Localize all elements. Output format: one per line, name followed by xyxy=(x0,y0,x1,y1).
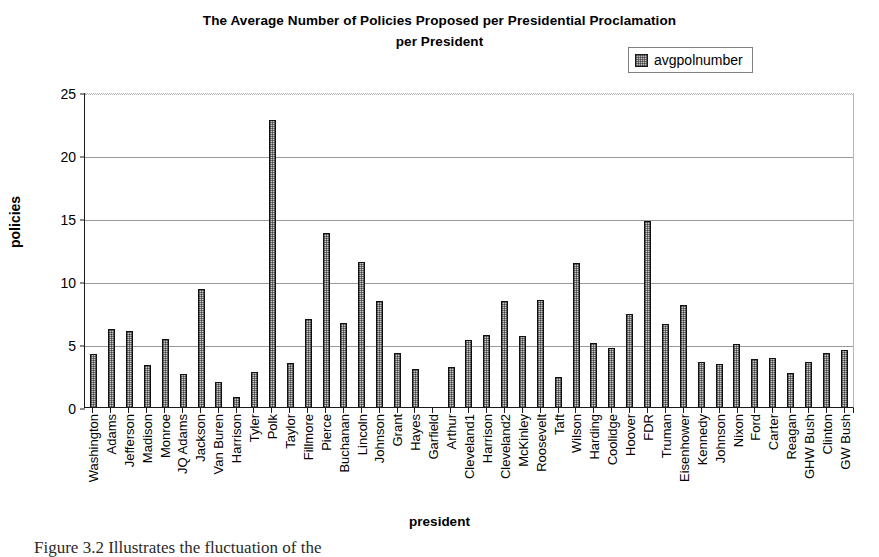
x-label-slot: Adams xyxy=(102,414,120,510)
bar[interactable] xyxy=(358,262,365,407)
bar[interactable] xyxy=(305,319,312,407)
bar[interactable] xyxy=(144,365,151,407)
bar[interactable] xyxy=(519,336,526,407)
bar[interactable] xyxy=(608,348,615,407)
bar[interactable] xyxy=(483,335,490,407)
legend-series-label: avgpolnumber xyxy=(654,53,743,67)
x-label-slot: Nixon xyxy=(729,414,747,510)
bar[interactable] xyxy=(662,324,669,407)
x-tick-label: Coolidge xyxy=(606,414,619,465)
x-tick-label: Madison xyxy=(140,414,153,463)
bars-layer xyxy=(85,94,853,407)
x-label-slot: Taft xyxy=(550,414,568,510)
bar[interactable] xyxy=(198,289,205,407)
x-label-slot: Carter xyxy=(764,414,782,510)
bar[interactable] xyxy=(376,301,383,407)
chart-legend[interactable]: avgpolnumber xyxy=(628,47,753,73)
x-tick-slot xyxy=(388,408,406,413)
bar[interactable] xyxy=(465,340,472,407)
x-tick-label: Lincoln xyxy=(355,414,368,455)
bar[interactable] xyxy=(787,373,794,407)
x-label-slot: Garfield xyxy=(424,414,442,510)
bar[interactable] xyxy=(537,300,544,407)
bar[interactable] xyxy=(680,305,687,407)
x-label-slot: Harding xyxy=(585,414,603,510)
bar[interactable] xyxy=(394,353,401,407)
bar[interactable] xyxy=(126,331,133,407)
x-tick-slot xyxy=(621,408,639,413)
bar[interactable] xyxy=(448,367,455,407)
bar[interactable] xyxy=(251,372,258,407)
x-tick-slot xyxy=(585,408,603,413)
x-tick-label: Johnson xyxy=(373,414,386,463)
x-tick-label: Cleveland1 xyxy=(462,414,475,479)
x-tick-label: Jackson xyxy=(194,414,207,462)
bar[interactable] xyxy=(90,354,97,407)
x-tick-label: Nixon xyxy=(731,414,744,447)
bar[interactable] xyxy=(644,221,651,407)
bar-slot xyxy=(371,94,389,407)
x-tick-mark xyxy=(647,408,648,413)
x-label-slot: Reagan xyxy=(782,414,800,510)
bar[interactable] xyxy=(162,339,169,407)
bar[interactable] xyxy=(323,233,330,407)
bar-slot xyxy=(389,94,407,407)
bar[interactable] xyxy=(412,369,419,407)
x-tick-slot xyxy=(603,408,621,413)
bar[interactable] xyxy=(108,329,115,407)
y-tick-label-0: 0 xyxy=(68,401,76,417)
bar[interactable] xyxy=(340,323,347,407)
x-tick-slot xyxy=(853,408,854,413)
bar[interactable] xyxy=(180,374,187,407)
x-label-slot: Eisenhower xyxy=(675,414,693,510)
bar[interactable] xyxy=(751,359,758,407)
x-tick-mark xyxy=(719,408,720,413)
figure-caption-fragment: Figure 3.2 Illustrates the fluctuation o… xyxy=(34,538,322,557)
x-tick-slot xyxy=(406,408,424,413)
x-tick-slot xyxy=(531,408,549,413)
bar-slot xyxy=(692,94,710,407)
bar[interactable] xyxy=(215,382,222,407)
bar[interactable] xyxy=(555,377,562,407)
bar[interactable] xyxy=(805,362,812,407)
x-tick-slot xyxy=(835,408,853,413)
bar[interactable] xyxy=(733,344,740,407)
x-tick-label: Reagan xyxy=(785,414,798,460)
x-tick-slot xyxy=(424,408,442,413)
x-tick-mark xyxy=(325,408,326,413)
y-tick-label-10: 10 xyxy=(60,275,76,291)
bar[interactable] xyxy=(823,353,830,407)
bar-slot xyxy=(531,94,549,407)
y-tick-label-20: 20 xyxy=(60,149,76,165)
x-tick-label: Jefferson xyxy=(122,414,135,467)
bar[interactable] xyxy=(269,120,276,407)
x-tick-mark xyxy=(361,408,362,413)
legend-swatch-icon xyxy=(635,54,648,67)
x-tick-mark xyxy=(540,408,541,413)
bar[interactable] xyxy=(698,362,705,407)
x-label-slot: Truman xyxy=(657,414,675,510)
x-tick-label: Cleveland2 xyxy=(498,414,511,479)
x-tick-slot xyxy=(334,408,352,413)
bar-slot xyxy=(710,94,728,407)
bar[interactable] xyxy=(233,397,240,407)
bar[interactable] xyxy=(501,301,508,407)
bar[interactable] xyxy=(590,343,597,407)
x-axis-ticks xyxy=(84,408,854,413)
x-tick-mark xyxy=(772,408,773,413)
x-tick-label: GW Bush xyxy=(839,414,852,470)
x-tick-mark xyxy=(504,408,505,413)
bar[interactable] xyxy=(626,314,633,407)
y-tick-label-15: 15 xyxy=(60,212,76,228)
x-label-slot: Johnson xyxy=(371,414,389,510)
x-tick-label: Eisenhower xyxy=(677,414,690,482)
bar[interactable] xyxy=(769,358,776,407)
x-label-slot: Jackson xyxy=(191,414,209,510)
x-tick-label: Ford xyxy=(749,414,762,441)
bar[interactable] xyxy=(573,263,580,407)
bar-slot xyxy=(639,94,657,407)
bar[interactable] xyxy=(287,363,294,407)
x-tick-label: Carter xyxy=(767,414,780,450)
bar[interactable] xyxy=(716,364,723,407)
bar[interactable] xyxy=(841,350,848,407)
